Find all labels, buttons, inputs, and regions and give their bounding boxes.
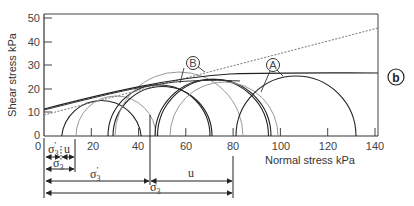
- mohr-circle-3: [108, 85, 210, 136]
- x-tick-40: 40: [132, 140, 144, 152]
- stress-annotations: [44, 115, 233, 198]
- x-tick-60: 60: [180, 140, 192, 152]
- y-tick-50: 50: [28, 12, 40, 24]
- x-axis-title: Normal stress kPa: [265, 154, 356, 166]
- callout-a-label: A: [269, 59, 277, 71]
- label-sigma3-large: σ3: [150, 180, 160, 196]
- x-tick-120: 120: [319, 140, 337, 152]
- callout-b-label: B: [189, 57, 196, 69]
- label-u-large: u: [188, 166, 194, 180]
- x-tick-100: 100: [272, 140, 290, 152]
- label-sigma3-small: σ3: [53, 156, 63, 172]
- y-axis-title: Shear stress kPa: [6, 32, 18, 117]
- panel-label: b: [388, 69, 404, 85]
- diagram-canvas: 50 40 30 20 10 0 Shear stress kPa 0 20 4…: [0, 0, 414, 206]
- label-u-small: u: [64, 142, 70, 156]
- callout-a: A: [261, 59, 283, 93]
- y-tick-20: 20: [28, 83, 40, 95]
- y-axis: 50 40 30 20 10 0 Shear stress kPa: [6, 12, 52, 141]
- envelope-a: [44, 73, 378, 109]
- panel-label-text: b: [392, 71, 399, 85]
- y-tick-40: 40: [28, 36, 40, 48]
- x-tick-80: 80: [227, 140, 239, 152]
- x-tick-140: 140: [366, 140, 384, 152]
- y-tick-10: 10: [28, 106, 40, 118]
- y-tick-30: 30: [28, 59, 40, 71]
- mohr-circle-a: [236, 76, 356, 136]
- x-tick-0: 0: [35, 140, 41, 152]
- label-sigma3-eff-large: σ3′: [90, 165, 100, 183]
- mohr-circle-diagram: 50 40 30 20 10 0 Shear stress kPa 0 20 4…: [0, 0, 414, 206]
- mohr-circles: [62, 72, 356, 136]
- mohr-circle-1: [62, 100, 142, 136]
- x-tick-20: 20: [87, 140, 99, 152]
- stress-annotation-labels: σ3′ u σ3 σ3′ u σ3: [48, 140, 194, 196]
- mohr-circle-2: [76, 96, 156, 136]
